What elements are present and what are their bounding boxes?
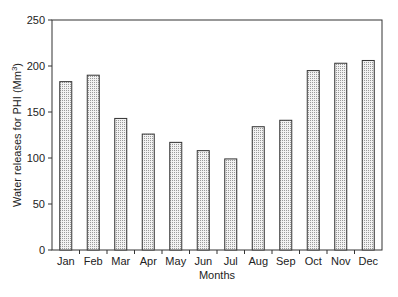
y-tick-label: 0 — [39, 244, 45, 256]
x-tick-label: Oct — [305, 255, 322, 267]
x-tick-label: Aug — [248, 255, 268, 267]
x-tick-label: Dec — [358, 255, 378, 267]
plot-frame — [52, 20, 382, 250]
bar-jan — [60, 82, 72, 250]
bar-dec — [362, 60, 374, 250]
x-axis-title: Months — [199, 269, 236, 281]
y-tick-label: 200 — [27, 60, 45, 72]
bar-chart: 050100150200250 JanFebMarAprMayJunJulAug… — [0, 0, 398, 297]
bar-jun — [197, 151, 209, 250]
y-tick-label: 250 — [27, 14, 45, 26]
bar-feb — [87, 75, 99, 250]
bar-jul — [225, 159, 237, 250]
x-tick-label: Mar — [111, 255, 130, 267]
bars — [60, 60, 375, 250]
x-tick-label: Jun — [194, 255, 212, 267]
bar-aug — [252, 127, 264, 250]
y-tick-label: 150 — [27, 106, 45, 118]
x-axis: JanFebMarAprMayJunJulAugSepOctNovDec — [57, 250, 379, 267]
y-axis-title: Water releases for PHI (Mm3) — [10, 63, 23, 207]
x-tick-label: Nov — [331, 255, 351, 267]
bar-sep — [280, 120, 292, 250]
x-tick-label: Jan — [57, 255, 75, 267]
bar-oct — [307, 71, 319, 250]
y-axis-title-end: ) — [11, 63, 23, 67]
bar-mar — [115, 118, 127, 250]
y-axis-title-main: Water releases for PHI (Mm — [11, 71, 23, 207]
y-tick-label: 50 — [33, 198, 45, 210]
x-tick-label: Sep — [276, 255, 296, 267]
x-tick-label: Feb — [84, 255, 103, 267]
x-tick-label: Apr — [140, 255, 157, 267]
bar-nov — [335, 63, 347, 250]
bar-apr — [142, 134, 154, 250]
x-tick-label: Jul — [224, 255, 238, 267]
y-tick-label: 100 — [27, 152, 45, 164]
x-tick-label: May — [165, 255, 186, 267]
bar-may — [170, 142, 182, 250]
y-axis: 050100150200250 — [27, 14, 52, 256]
